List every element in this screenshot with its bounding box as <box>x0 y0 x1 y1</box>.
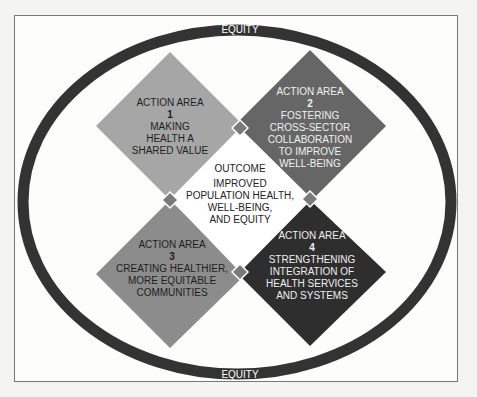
action-area-2-line: FOSTERING <box>281 110 340 121</box>
action-area-2-line: WELL-BEING <box>279 158 341 169</box>
outcome-line: IMPROVED <box>213 178 266 189</box>
outcome-line: WELL-BEING, <box>208 202 272 213</box>
action-area-2-line: CROSS-SECTOR <box>270 122 350 133</box>
action-area-4-heading: ACTION AREA <box>278 230 346 241</box>
outcome-line: POPULATION HEALTH, <box>186 190 294 201</box>
action-area-1-line: MAKING <box>150 121 190 132</box>
action-area-3-line: MORE EQUITABLE <box>128 275 216 286</box>
action-area-3-heading: ACTION AREA <box>138 239 206 250</box>
action-area-1-line: HEALTH A <box>146 133 194 144</box>
action-area-2-line: TO IMPROVE <box>279 146 342 157</box>
action-area-2-heading: ACTION AREA <box>276 86 344 97</box>
action-area-1-heading: ACTION AREA <box>136 97 204 108</box>
action-area-2-line: COLLABORATION <box>268 134 352 145</box>
action-area-4-text: ACTION AREA 4 STRENGTHENING INTEGRATION … <box>266 230 358 301</box>
action-area-3-line: CREATING HEALTHIER, <box>116 263 228 274</box>
action-area-1-number: 1 <box>167 109 173 120</box>
outcome-title: OUTCOME <box>214 163 265 174</box>
action-area-3-number: 3 <box>169 251 175 262</box>
action-area-3-line: COMMUNITIES <box>136 287 207 298</box>
action-area-1-line: SHARED VALUE <box>132 145 209 156</box>
action-area-4-number: 4 <box>309 242 315 253</box>
equity-label-bottom: EQUITY <box>221 369 259 380</box>
equity-label-top: EQUITY <box>221 24 259 35</box>
action-area-4-line: HEALTH SERVICES <box>266 278 358 289</box>
action-area-4-line: AND SYSTEMS <box>276 290 348 301</box>
outcome-line: AND EQUITY <box>209 214 270 225</box>
culture-of-health-diagram: EQUITY EQUITY ACTION AREA 1 MAKING HEALT… <box>0 0 477 397</box>
action-area-4-line: INTEGRATION OF <box>270 266 354 277</box>
action-area-2-number: 2 <box>307 98 313 109</box>
action-area-4-line: STRENGTHENING <box>269 254 356 265</box>
